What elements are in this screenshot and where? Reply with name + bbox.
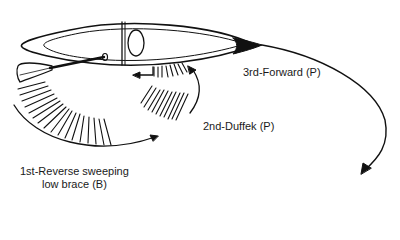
- stroke3-hatch: [154, 63, 187, 77]
- stroke1-arrow: [14, 105, 155, 146]
- stroke2-label: 2nd-Duffek (P): [203, 120, 274, 133]
- canoe-path-arrowhead: [361, 163, 371, 174]
- stroke3-arrowhead: [133, 72, 140, 78]
- stroke2-arrow: [190, 70, 199, 113]
- stroke1-label-line2: low brace (B): [20, 178, 129, 191]
- paddle-blade: [17, 63, 52, 82]
- stroke1-label-line1: 1st-Reverse sweeping: [20, 165, 129, 178]
- canoe-path-curve: [262, 45, 386, 170]
- stroke1-arrowhead: [150, 135, 158, 141]
- paddle-blade-ridge: [20, 68, 50, 75]
- stroke1-hatch: [18, 82, 111, 145]
- stroke1-label: 1st-Reverse sweeping low brace (B): [20, 165, 129, 191]
- stroke3-label: 3rd-Forward (P): [243, 66, 321, 79]
- stroke2-hatch: [141, 86, 188, 120]
- seat-oval: [128, 30, 144, 56]
- canoe-bow-fill: [233, 38, 262, 54]
